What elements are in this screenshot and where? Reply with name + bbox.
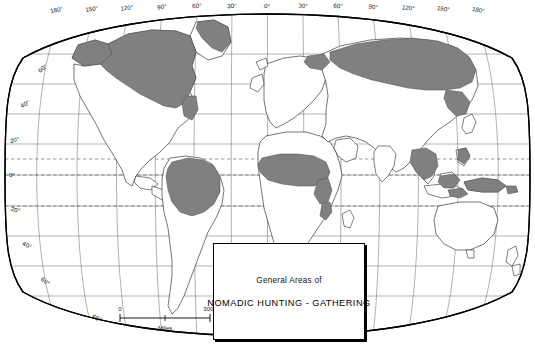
lon-label-30e: 30° bbox=[298, 2, 308, 9]
longitude-labels: 180° 150° 120° 90° 60° 30° 0° 30° 60° 90… bbox=[49, 2, 486, 15]
lon-label-90e: 90° bbox=[368, 3, 378, 11]
world-map-figure: 180° 150° 120° 90° 60° 30° 0° 30° 60° 90… bbox=[0, 0, 535, 350]
legend-title-line-2: NOMADIC HUNTING - GATHERING bbox=[207, 298, 370, 308]
lat-label-0: 0° bbox=[9, 171, 15, 178]
lon-label-60w: 60° bbox=[192, 2, 202, 10]
lon-label-0: 0° bbox=[264, 2, 270, 9]
lon-label-120e: 120° bbox=[402, 3, 416, 12]
lon-label-90w: 90° bbox=[157, 3, 167, 11]
lon-label-150w: 150° bbox=[85, 4, 99, 13]
lon-label-180e: 180° bbox=[472, 5, 486, 15]
lon-label-30w: 30° bbox=[227, 2, 237, 9]
map-legend-inner: General Areas of NOMADIC HUNTING - GATHE… bbox=[214, 244, 364, 339]
scale-bar-unit-label: Miles bbox=[158, 325, 172, 331]
lon-label-120w: 120° bbox=[120, 3, 134, 12]
lon-label-60e: 60° bbox=[333, 2, 343, 10]
lon-label-150e: 150° bbox=[437, 4, 451, 13]
map-legend-box: General Areas of NOMADIC HUNTING - GATHE… bbox=[213, 243, 365, 340]
lon-label-180w: 180° bbox=[49, 5, 63, 15]
legend-title-line-1: General Areas of bbox=[256, 276, 321, 285]
